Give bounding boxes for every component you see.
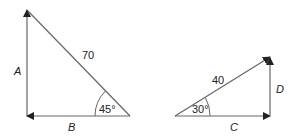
label-d: D [276,84,284,95]
right-triangle [175,57,270,116]
vector-triangles-diagram: 70 A B 45° 40 D C 30° [0,0,296,140]
diagram-graphics [0,0,296,140]
vector-40-arrow [175,57,270,116]
hypotenuse-70-line [28,11,130,116]
label-70: 70 [82,50,94,61]
label-c: C [230,122,238,133]
label-b: B [68,122,75,133]
label-a: A [14,66,21,77]
label-40: 40 [212,75,224,86]
label-45-degrees: 45° [99,104,116,115]
label-30-degrees: 30° [192,104,209,115]
left-triangle [27,10,130,116]
